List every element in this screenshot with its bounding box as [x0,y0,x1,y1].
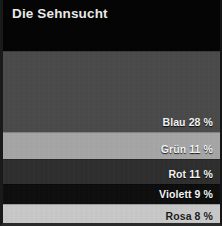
stacked-band-chart: Blau 28 % Grün 11 % Rot 11 % Violett 9 %… [3,51,220,223]
chart-band-blau: Blau 28 % [3,51,220,132]
band-separator [3,184,220,185]
chart-band-rosa: Rosa 8 % [3,204,220,226]
band-label-rosa: Rosa 8 % [166,211,214,223]
band-separator [3,51,220,52]
band-label-blau: Blau 28 % [162,117,213,129]
band-separator [3,204,220,205]
chart-figure: Die Sehnsucht Blau 28 % Grün 11 % Rot 11… [0,0,222,226]
band-label-gruen: Grün 11 % [161,144,213,156]
band-label-rot: Rot 11 % [168,169,213,181]
band-separator [3,132,220,133]
page-title: Die Sehnsucht [12,6,108,21]
band-label-violett: Violett 9 % [159,189,213,201]
chart-band-rot: Rot 11 % [3,159,220,184]
band-separator [3,159,220,160]
chart-band-gruen: Grün 11 % [3,132,220,159]
chart-band-violett: Violett 9 % [3,184,220,204]
chart-header: Die Sehnsucht [3,0,220,51]
